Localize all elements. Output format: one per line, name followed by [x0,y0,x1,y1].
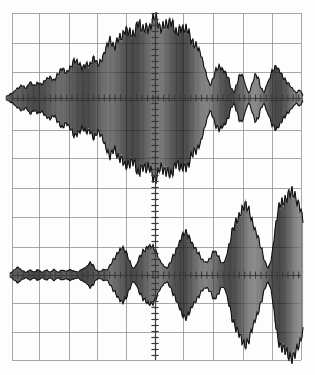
oscilloscope-display [0,0,315,375]
scope-canvas [0,0,315,375]
